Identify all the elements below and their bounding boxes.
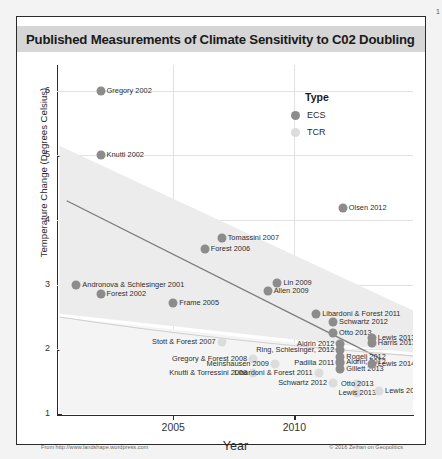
y-tick-label: 6 (24, 85, 50, 95)
legend-item-label: ECS (307, 110, 326, 120)
data-point-label: Lewis 2014 (378, 359, 413, 367)
data-point-ecs[interactable] (263, 287, 272, 296)
legend-swatch-icon (291, 128, 300, 137)
data-point-label: Ring, Schlesinger, 2012 (256, 346, 334, 354)
data-point-label: Knutti 2002 (107, 151, 144, 159)
data-point-ecs[interactable] (336, 364, 345, 373)
legend: Type ECSTCR (285, 91, 381, 144)
data-point-label: Frame 2005 (179, 299, 219, 307)
data-point-ecs[interactable] (329, 318, 338, 327)
y-tick-label: 3 (24, 279, 50, 289)
data-point-label: Padilla 2011 (294, 359, 334, 367)
data-point-ecs[interactable] (72, 280, 81, 289)
x-tick (294, 415, 295, 420)
legend-item-tcr[interactable]: TCR (291, 127, 381, 137)
data-point-tcr[interactable] (314, 368, 323, 377)
data-point-ecs[interactable] (367, 338, 376, 347)
data-point-ecs[interactable] (96, 290, 105, 299)
data-point-ecs[interactable] (312, 309, 321, 318)
data-point-label: Harris 2013 (378, 339, 413, 347)
y-axis-label: Temperature Change (Degrees Celsius) (38, 83, 49, 263)
footer-copyright: © 2016 Zeihan on Geopolitics (329, 444, 403, 450)
x-tick-label: 2005 (149, 421, 197, 433)
chart-page: 1 Published Measurements of Climate Sens… (0, 0, 442, 459)
data-point-ecs[interactable] (169, 298, 178, 307)
y-tick (57, 414, 62, 415)
data-point-tcr[interactable] (217, 337, 226, 346)
page-number: 1 (436, 8, 440, 15)
data-point-ecs[interactable] (200, 245, 209, 254)
data-point-label: Stott & Forest 2007 (152, 337, 216, 345)
data-point-ecs[interactable] (338, 204, 347, 213)
y-tick-label: 4 (24, 214, 50, 224)
data-point-ecs[interactable] (329, 329, 338, 338)
data-point-label: Schwartz 2012 (339, 318, 388, 326)
y-tick-label: 5 (24, 149, 50, 159)
legend-swatch-icon (291, 111, 300, 120)
data-point-label: Forest 2006 (211, 245, 250, 253)
data-point-tcr[interactable] (329, 378, 338, 387)
data-point-label: Lewis 2014 (385, 387, 413, 395)
x-tick-label: 2010 (270, 421, 318, 433)
data-point-ecs[interactable] (367, 359, 376, 368)
data-point-label: Allen 2009 (274, 287, 309, 295)
data-point-label: Schwartz 2012 (278, 379, 327, 387)
page-title: Published Measurements of Climate Sensit… (17, 32, 415, 47)
legend-item-ecs[interactable]: ECS (291, 110, 381, 120)
data-point-label: Gregory 2002 (107, 87, 152, 95)
x-axis-line (57, 415, 414, 416)
chart-title-band: Published Measurements of Climate Sensit… (17, 26, 425, 52)
data-point-label: Otto 2013 (341, 379, 373, 387)
x-tick (173, 415, 174, 420)
data-point-label: Forest 2002 (107, 290, 146, 298)
chart-frame: Published Measurements of Climate Sensit… (16, 16, 426, 445)
data-point-label: Libardoni & Forest 2011 (234, 368, 312, 376)
y-tick-label: 1 (24, 408, 50, 418)
data-point-label: Lewis 2013 (339, 389, 376, 397)
data-point-label: Andronova & Schlesinger 2001 (82, 281, 184, 289)
legend-title: Type (305, 91, 381, 103)
data-point-ecs[interactable] (96, 86, 105, 95)
data-point-tcr[interactable] (375, 387, 384, 396)
footer-source: From http://www.landshape.wordpress.com (41, 444, 148, 450)
data-point-ecs[interactable] (96, 151, 105, 160)
data-point-label: Meinshausen 2009 (206, 359, 268, 367)
y-tick-label: 2 (24, 343, 50, 353)
data-point-ecs[interactable] (217, 234, 226, 243)
data-point-label: Tomassini 2007 (228, 234, 279, 242)
data-point-label: Olsen 2012 (349, 204, 387, 212)
legend-item-label: TCR (307, 127, 326, 137)
